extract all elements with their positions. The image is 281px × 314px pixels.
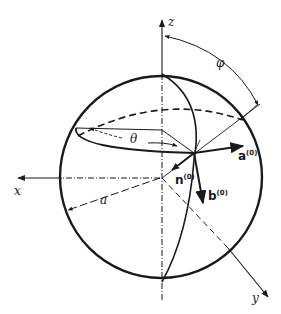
theta-label: θ [130,132,138,146]
latitude-circle-back [78,109,243,136]
vector-n [172,153,194,170]
x-axis-label: x [14,184,21,198]
phi-extension [240,104,258,120]
radius-line [68,178,160,210]
z-axis-label: z [167,15,175,29]
theta-reference-line [76,128,162,130]
sphere-outline [60,76,262,278]
theta-arrow-left [90,128,122,138]
vector-a [194,146,243,153]
vector-b [194,153,203,203]
phi-arc [165,36,258,105]
y-axis-outer [228,248,268,297]
y-axis-label: y [251,291,259,305]
theta-azimuth-line [162,130,194,153]
sphere-diagram: z x y θ φ a a(0) b(0) n(0) [0,0,281,314]
vector-a-label: a(0) [238,149,257,163]
radius-label: a [100,193,107,207]
vector-b-label: b(0) [208,189,228,203]
phi-label: φ [216,56,225,70]
